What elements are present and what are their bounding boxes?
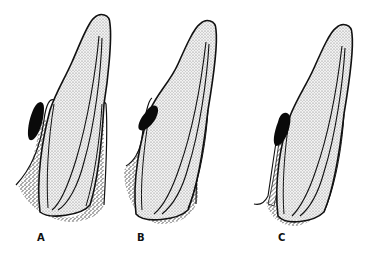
panel-label-a: A <box>37 232 45 243</box>
panel-c <box>254 25 352 226</box>
panel-a <box>16 15 111 222</box>
dental-diagram <box>0 0 368 254</box>
panel-label-c: C <box>278 232 285 243</box>
panel-b <box>124 21 216 224</box>
panel-label-b: B <box>137 232 145 243</box>
